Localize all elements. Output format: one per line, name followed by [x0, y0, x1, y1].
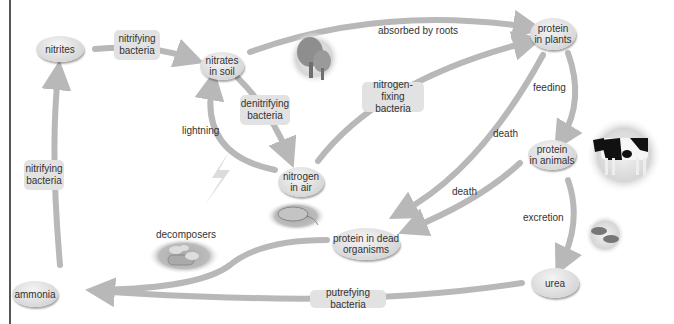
box-denitrifying-bacteria: denitrifying bacteria	[240, 95, 290, 125]
node-nitrates-in-soil: nitrates in soil	[200, 52, 244, 80]
box-nitrifying-bacteria-top: nitrifying bacteria	[114, 30, 160, 60]
label-excretion: excretion	[523, 212, 564, 223]
arrow-feeding	[562, 53, 575, 138]
node-ammonia: ammonia	[12, 281, 58, 307]
label-feeding: feeding	[533, 82, 566, 93]
node-urea: urea	[531, 268, 579, 298]
node-protein-in-plants: protein in plants	[530, 18, 576, 50]
node-protein-in-animals: protein in animals	[528, 140, 576, 170]
lightning-bolt-icon	[205, 150, 230, 205]
droppings-icon	[585, 215, 625, 255]
box-putrefying-bacteria: putrefying bacteria	[310, 290, 386, 308]
mushrooms-icon	[148, 238, 220, 274]
node-nitrogen-in-air: nitrogen in air	[278, 167, 324, 197]
label-lightning: lightning	[182, 125, 219, 136]
arrow-excretion	[562, 180, 574, 262]
trees-icon	[288, 32, 340, 84]
box-nitrogen-fixing-bacteria: nitrogen-fixing bacteria	[362, 82, 424, 112]
node-protein-in-dead-organisms: protein in dead organisms	[332, 228, 400, 260]
box-nitrifying-bacteria-left: nitrifying bacteria	[24, 160, 64, 190]
mouse-icon	[266, 201, 326, 231]
node-nitrites: nitrites	[36, 36, 84, 62]
cow-icon	[586, 117, 662, 193]
label-decomposers: decomposers	[156, 229, 216, 240]
label-death-plants: death	[493, 128, 518, 139]
label-death-animals: death	[452, 186, 477, 197]
label-absorbed-by-roots: absorbed by roots	[378, 25, 458, 36]
